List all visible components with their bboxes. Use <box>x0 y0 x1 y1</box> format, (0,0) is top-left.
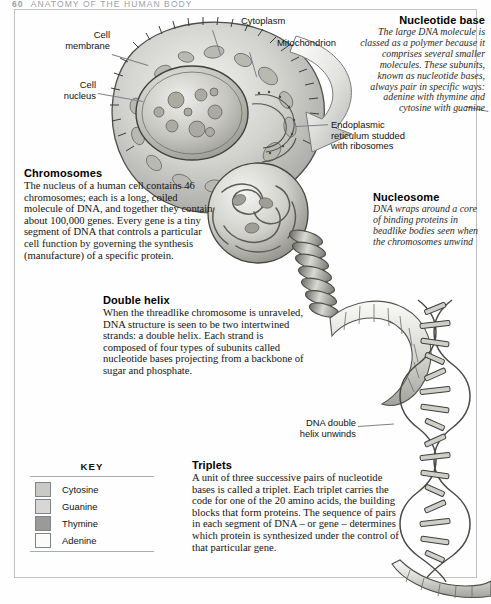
callout-nucleotide-base-heading: Nucleotide base <box>352 14 485 26</box>
key-swatch-adenine <box>35 533 51 548</box>
key-label-guanine: Guanine <box>62 501 97 512</box>
label-endoplasmic-reticulum-text: Endoplasmic reticulum studded with ribos… <box>331 120 441 152</box>
label-cell-membrane: Cell membrane <box>20 30 110 51</box>
label-endoplasmic-reticulum: Endoplasmic reticulum studded with ribos… <box>331 120 441 152</box>
callout-triplets-text: A unit of three successive pairs of nucl… <box>192 472 404 553</box>
key-label-adenine: Adenine <box>62 535 96 546</box>
key-label-cytosine: Cytosine <box>62 484 98 495</box>
label-dna-helix-unwinds: DNA double helix unwinds <box>292 418 356 439</box>
textbook-page: 60ANATOMY OF THE HUMAN BODY <box>0 0 491 604</box>
key-legend-rule-bottom <box>30 551 154 552</box>
key-legend-item-guanine: Guanine <box>28 498 156 515</box>
callout-chromosomes-heading: Chromosomes <box>24 167 216 179</box>
key-legend-rows: Cytosine Guanine Thymine Adenine <box>28 477 156 551</box>
label-cell-membrane-text: Cell membrane <box>20 30 110 51</box>
label-cell-nucleus-text: Cell nucleus <box>20 80 96 101</box>
callout-nucleosome: Nucleosome DNA wraps around a core of bi… <box>373 191 485 248</box>
callout-nucleosome-text: DNA wraps around a core of binding prote… <box>373 204 485 248</box>
callout-double-helix: Double helix When the threadlike chromos… <box>103 294 305 377</box>
callout-chromosomes-text: The nucleus of a human cell contains 46 … <box>24 180 216 261</box>
key-legend: KEY Cytosine Guanine Thymine Adenine <box>28 455 156 556</box>
callout-nucleotide-base-text: The large DNA molecule is classed as a p… <box>352 27 485 114</box>
key-legend-item-thymine: Thymine <box>28 515 156 532</box>
callout-chromosomes: Chromosomes The nucleus of a human cell … <box>24 167 216 261</box>
key-swatch-guanine <box>35 499 51 514</box>
running-head-title: ANATOMY OF THE HUMAN BODY <box>31 0 193 9</box>
callout-nucleosome-heading: Nucleosome <box>373 191 485 203</box>
key-legend-item-cytosine: Cytosine <box>28 481 156 498</box>
callout-triplets-heading: Triplets <box>192 459 404 471</box>
callout-double-helix-heading: Double helix <box>103 294 305 306</box>
key-swatch-thymine <box>35 516 51 531</box>
label-cell-nucleus: Cell nucleus <box>20 80 96 101</box>
key-legend-item-adenine: Adenine <box>28 532 156 549</box>
key-legend-title: KEY <box>28 461 156 476</box>
key-swatch-cytosine <box>35 482 51 497</box>
label-cytoplasm: Cytoplasm <box>241 16 331 27</box>
callout-nucleotide-base: Nucleotide base The large DNA molecule i… <box>352 14 485 114</box>
label-dna-helix-unwinds-text: DNA double helix unwinds <box>292 418 356 439</box>
page-folio: 60 <box>12 0 24 9</box>
callout-triplets: Triplets A unit of three successive pair… <box>192 459 404 553</box>
key-label-thymine: Thymine <box>62 518 98 529</box>
callout-double-helix-text: When the threadlike chromosome is unrave… <box>103 307 305 377</box>
label-cytoplasm-text: Cytoplasm <box>241 16 331 27</box>
